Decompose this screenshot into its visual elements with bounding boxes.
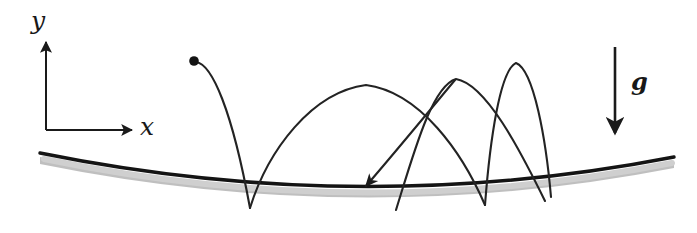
ball-particle bbox=[189, 56, 199, 66]
y-axis-label: y bbox=[31, 8, 45, 33]
gravity-label: g bbox=[631, 70, 648, 94]
coordinate-axes bbox=[46, 42, 132, 130]
figure-canvas bbox=[0, 0, 697, 233]
physics-figure-bouncing-ball: y x g bbox=[0, 0, 697, 233]
ground-surface bbox=[40, 153, 674, 198]
x-axis-label: x bbox=[140, 114, 154, 139]
